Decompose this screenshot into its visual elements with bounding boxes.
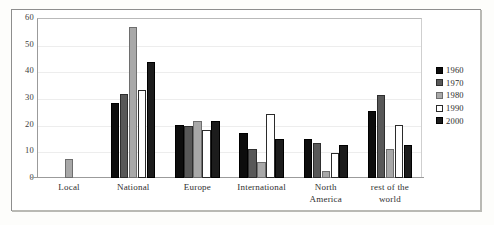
bar bbox=[138, 90, 146, 178]
y-axis-tick-label: 20 bbox=[14, 120, 34, 129]
bar bbox=[404, 145, 412, 178]
bar bbox=[331, 153, 339, 178]
bar-group bbox=[111, 18, 155, 178]
bar bbox=[120, 94, 128, 178]
bar bbox=[147, 62, 155, 178]
legend-label: 2000 bbox=[446, 116, 464, 126]
gridline bbox=[38, 46, 421, 47]
legend-label: 1970 bbox=[446, 78, 464, 88]
gridline bbox=[38, 126, 421, 127]
bar bbox=[368, 111, 376, 178]
bar bbox=[211, 121, 219, 178]
legend-label: 1960 bbox=[446, 65, 464, 75]
y-axis-tick-label: 10 bbox=[14, 146, 34, 155]
y-axis-tick-labels: 6050403020100 bbox=[11, 0, 34, 200]
bar bbox=[65, 159, 73, 178]
bar bbox=[386, 149, 394, 178]
bar bbox=[377, 95, 385, 178]
legend-swatch bbox=[436, 79, 443, 86]
x-axis-category-label-line: rest of the bbox=[347, 182, 433, 194]
bar bbox=[313, 143, 321, 178]
chart-figure: 6050403020100 LocalNationalEuropeInterna… bbox=[0, 0, 494, 225]
y-axis-tick-label: 60 bbox=[14, 13, 34, 22]
chart-legend: 19601970198019902000 bbox=[436, 64, 482, 127]
y-axis-tick-label: 30 bbox=[14, 93, 34, 102]
bar bbox=[184, 126, 192, 178]
gridline bbox=[38, 152, 421, 153]
legend-swatch bbox=[436, 117, 443, 124]
x-axis-category-label-line: world bbox=[347, 194, 433, 206]
legend-item: 1960 bbox=[436, 64, 482, 77]
legend-label: 1980 bbox=[446, 90, 464, 100]
legend-item: 1980 bbox=[436, 89, 482, 102]
bar bbox=[193, 121, 201, 178]
gridline bbox=[38, 72, 421, 73]
bar-group bbox=[175, 18, 219, 178]
bar bbox=[266, 114, 274, 178]
bar bbox=[339, 145, 347, 178]
bar-group bbox=[304, 18, 348, 178]
bar bbox=[111, 103, 119, 178]
legend-label: 1990 bbox=[446, 103, 464, 113]
x-axis-category-label: rest of theworld bbox=[347, 182, 433, 205]
bar bbox=[395, 125, 403, 178]
legend-swatch bbox=[436, 67, 443, 74]
bar bbox=[275, 139, 283, 178]
y-axis-tick-label: 50 bbox=[14, 40, 34, 49]
bar bbox=[175, 125, 183, 178]
bar bbox=[202, 130, 210, 178]
bar bbox=[257, 162, 265, 178]
legend-swatch bbox=[436, 105, 443, 112]
bar bbox=[239, 133, 247, 178]
bar-group bbox=[368, 18, 412, 178]
legend-swatch bbox=[436, 92, 443, 99]
bar bbox=[322, 171, 330, 178]
bar-group bbox=[47, 18, 91, 178]
bar bbox=[129, 27, 137, 178]
gridline bbox=[38, 99, 421, 100]
legend-item: 2000 bbox=[436, 114, 482, 127]
y-axis-tick-label: 40 bbox=[14, 66, 34, 75]
plot-area bbox=[37, 18, 422, 178]
bar bbox=[304, 139, 312, 178]
bar-group bbox=[239, 18, 283, 178]
legend-item: 1970 bbox=[436, 77, 482, 90]
legend-item: 1990 bbox=[436, 102, 482, 115]
bar bbox=[248, 149, 256, 178]
